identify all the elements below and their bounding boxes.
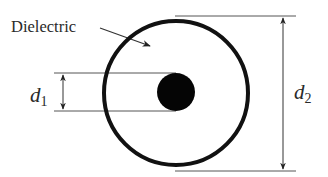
d2-symbol: d (294, 80, 305, 104)
d1-subscript: 1 (41, 94, 48, 109)
d2-subscript: 2 (305, 91, 312, 106)
coax-diagram: Dielectric d1 d2 (0, 0, 328, 177)
d1-symbol: d (30, 83, 41, 107)
d2-label: d2 (294, 80, 312, 106)
inner-conductor-circle (157, 73, 195, 111)
dielectric-label: Dielectric (11, 17, 76, 36)
d1-label: d1 (30, 83, 48, 109)
